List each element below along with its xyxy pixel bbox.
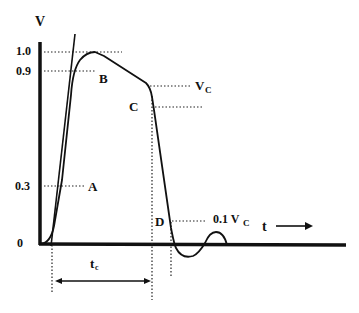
point-c-label: C [129,99,138,114]
svg-text:V: V [195,78,205,93]
x-axis-arrow-icon [276,222,313,230]
y-tick-0: 0 [17,236,23,250]
rise-tangent-line [51,34,75,246]
svg-text:0.1 V: 0.1 V [213,212,240,226]
svg-text:C: C [243,218,250,228]
vc-annotation: V C [195,78,212,95]
x-axis-label: t [262,219,267,234]
y-axis-label: V [35,14,45,29]
pulse-waveform-diagram: V t 1.0 0.9 0.3 0 A B C D V C 0.1 V C t [0,0,359,313]
y-tick-0-3: 0.3 [15,179,30,193]
tc-double-arrow [55,278,151,284]
y-tick-0-9: 0.9 [16,64,31,78]
point-b-label: B [99,71,108,86]
tenth-vc-annotation: 0.1 V C [213,212,250,228]
svg-text:c: c [95,263,99,272]
y-tick-1-0: 1.0 [16,44,31,58]
point-a-label: A [88,179,98,194]
point-d-label: D [155,214,164,229]
svg-text:C: C [205,85,212,95]
x-axis [39,244,346,245]
tc-annotation: t c [90,256,99,272]
